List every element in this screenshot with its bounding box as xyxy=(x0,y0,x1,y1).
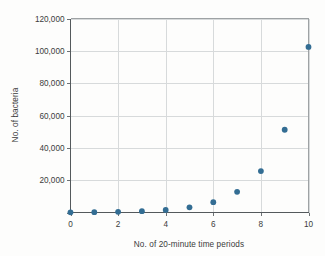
y-tick-label: 80,000 xyxy=(39,79,64,88)
x-tick-label: 2 xyxy=(116,220,121,229)
x-tick-label: 0 xyxy=(68,220,73,229)
data-point xyxy=(282,127,288,133)
y-tick-label: 20,000 xyxy=(39,176,64,185)
y-tick-label: 60,000 xyxy=(39,112,64,121)
data-point xyxy=(258,168,264,174)
data-point xyxy=(91,209,97,215)
data-point xyxy=(187,204,193,210)
y-tick-label: 100,000 xyxy=(35,47,65,56)
data-point xyxy=(68,209,74,215)
y-tick-label: 40,000 xyxy=(39,144,64,153)
data-point xyxy=(139,208,145,214)
x-axis-label: No. of 20-minute time periods xyxy=(134,240,244,249)
data-point xyxy=(210,199,216,205)
bacteria-growth-chart: 20,00040,00060,00080,000100,000120,000 0… xyxy=(0,0,325,256)
data-point xyxy=(306,44,312,50)
x-tick-label: 8 xyxy=(259,220,264,229)
y-axis-label: No. of bacteria xyxy=(11,87,20,142)
chart-canvas: 20,00040,00060,00080,000100,000120,000 0… xyxy=(0,0,325,256)
data-point xyxy=(163,207,169,213)
x-tick-label: 6 xyxy=(211,220,216,229)
data-point xyxy=(115,209,121,215)
x-tick-label: 10 xyxy=(304,220,314,229)
x-tick-label: 4 xyxy=(163,220,168,229)
y-tick-label: 120,000 xyxy=(35,15,65,24)
chart-background xyxy=(0,0,325,256)
data-point xyxy=(234,189,240,195)
